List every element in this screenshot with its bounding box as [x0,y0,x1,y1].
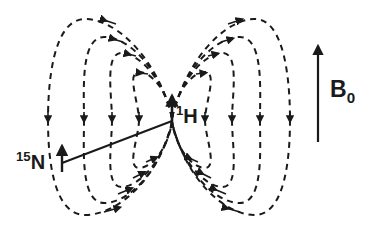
arrow-lower-right-2 [201,173,211,178]
dipolar-field-figure: 1H 15N B0 [0,0,369,235]
arrow-upper-left-3 [113,39,123,42]
nitrogen-element-symbol: N [31,151,45,173]
field-line-upper-left-3 [84,37,172,120]
arrow-upper-right-4 [228,20,240,24]
b0-label: B0 [330,78,355,105]
nitrogen-mass-number: 15 [16,149,31,164]
field-line-upper-left-4 [48,19,172,120]
field-line-lower-right-2 [172,120,234,187]
internuclear-vector-line [62,121,172,163]
arrow-upper-left-4 [104,20,116,24]
nitrogen-label: 15N [16,150,45,172]
field-line-upper-left-2 [110,53,172,120]
arrow-upper-right-1 [196,73,204,74]
arrow-lower-right-3 [214,189,226,194]
proton-label: 1H [176,104,198,126]
field-line-lower-left-2 [110,120,172,187]
arrow-upper-left-2 [128,54,136,56]
arrow-lower-left-2 [133,173,143,178]
arrow-lower-left-3 [118,189,130,194]
arrow-upper-left-1 [140,73,148,74]
b0-subscript: 0 [347,89,355,106]
arrow-upper-right-3 [221,39,231,42]
proton-element-symbol: H [183,105,197,127]
b0-symbol: B [330,76,347,102]
arrow-upper-right-2 [208,54,216,56]
